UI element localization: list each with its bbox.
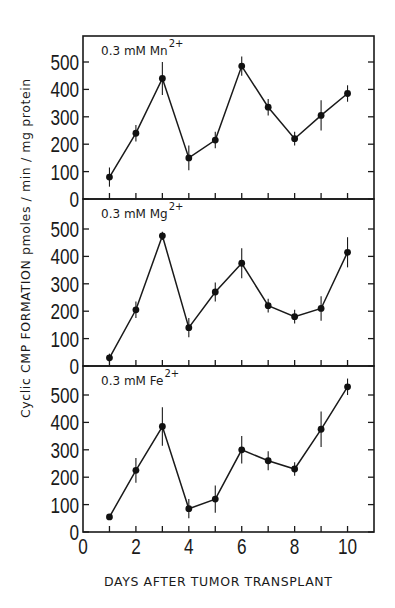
panel-frame [83,199,374,366]
panel-2: 01002003004005000.3 mM Mg2+ [50,199,374,378]
panel-label-superscript: 2+ [169,201,184,212]
series-line [110,236,348,358]
data-point [291,135,298,142]
data-point [318,112,325,119]
y-tick-label: 0 [69,187,79,212]
data-point [212,496,219,503]
data-point [212,137,219,144]
panel-label: 0.3 mM Mg [101,207,168,221]
y-tick-label: 100 [50,160,79,185]
x-axis-title: DAYS AFTER TUMOR TRANSPLANT [104,574,333,589]
series-line [110,387,348,517]
y-tick-label: 100 [50,493,79,518]
series-line [110,66,348,177]
data-point [291,466,298,473]
data-point [265,302,272,309]
y-tick-label: 200 [50,299,79,324]
data-point [344,383,351,390]
y-tick-label: 200 [50,132,79,157]
data-point [344,249,351,256]
y-tick-label: 500 [50,50,79,75]
data-point [318,305,325,312]
y-tick-label: 300 [50,438,79,463]
data-point [344,90,351,97]
data-point [106,514,113,521]
data-point [185,324,192,331]
y-tick-label: 200 [50,465,79,490]
y-tick-label: 0 [69,354,79,379]
data-point [159,423,166,430]
y-tick-label: 300 [50,105,79,130]
data-point [159,232,166,239]
chart-figure: 01002003004005000.3 mM Mn2+0100200300400… [0,0,395,608]
data-point [291,313,298,320]
y-tick-label: 500 [50,217,79,242]
data-point [265,457,272,464]
y-tick-label: 300 [50,272,79,297]
data-point [106,174,113,181]
y-tick-label: 400 [50,77,79,102]
x-axis: 0246810 [78,534,357,559]
data-point [185,155,192,162]
data-point [185,505,192,512]
panel-label-superscript: 2+ [169,38,184,49]
data-point [106,354,113,361]
panel-label: 0.3 mM Mn [101,44,168,58]
y-tick-label: 400 [50,244,79,269]
x-tick-label: 10 [338,534,357,559]
data-point [238,446,245,453]
panel-frame [83,36,374,199]
panel-1: 01002003004005000.3 mM Mn2+ [50,36,374,211]
x-tick-label: 4 [184,534,194,559]
data-point [318,426,325,433]
panel-3: 01002003004005000.3 mM Fe2+ [50,366,374,544]
y-tick-label: 500 [50,383,79,408]
data-point [265,104,272,111]
data-point [133,467,140,474]
data-point [238,260,245,267]
panel-label: 0.3 mM Fe [101,374,163,388]
x-tick-label: 0 [78,534,88,559]
y-tick-label: 100 [50,327,79,352]
data-point [159,75,166,82]
panels-group: 01002003004005000.3 mM Mn2+0100200300400… [50,36,374,544]
data-point [133,306,140,313]
x-tick-label: 2 [131,534,141,559]
panel-label-superscript: 2+ [164,368,179,379]
y-tick-label: 400 [50,410,79,435]
x-tick-label: 6 [237,534,247,559]
x-tick-label: 8 [290,534,300,559]
data-point [133,130,140,137]
y-axis-title: Cyclic CMP FORMATION pmoles / min / mg p… [18,78,33,418]
data-point [212,289,219,296]
panel-frame [83,366,374,532]
data-point [238,63,245,70]
